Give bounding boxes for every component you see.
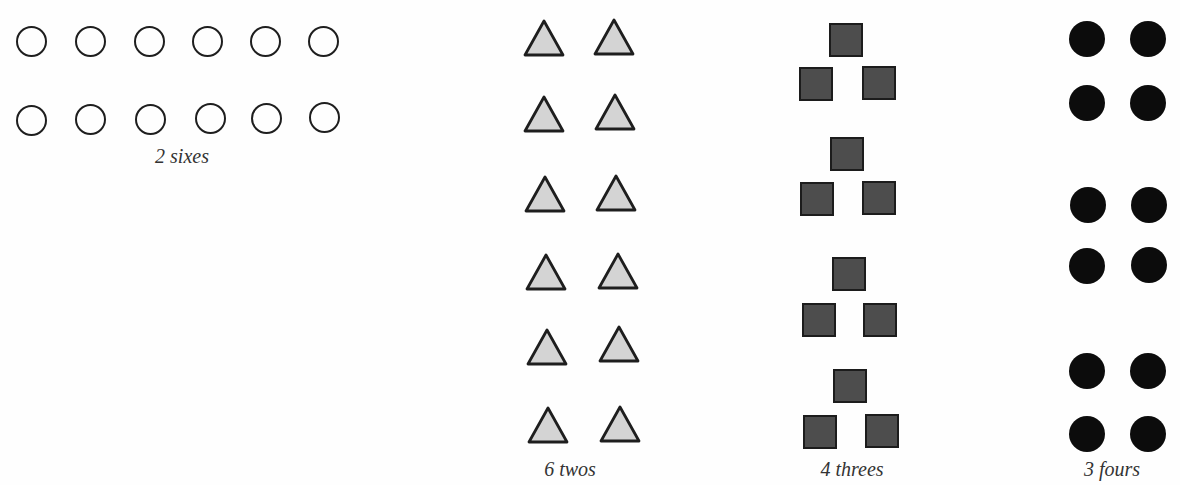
triangle-icon: [596, 251, 640, 291]
open-circle-icon: [192, 26, 223, 57]
filled-circle-icon: [1069, 416, 1105, 452]
triangle-icon: [594, 173, 638, 213]
open-circle-icon: [250, 26, 281, 57]
open-circle-icon: [16, 26, 47, 57]
square-icon: [829, 23, 863, 57]
triangle-icon: [598, 404, 642, 444]
square-icon: [862, 66, 896, 100]
group-label-sixes: 2 sixes: [155, 145, 209, 168]
group-label-fours: 3 fours: [1084, 458, 1140, 481]
filled-circle-icon: [1130, 85, 1166, 121]
square-icon: [803, 415, 837, 449]
square-icon: [863, 303, 897, 337]
open-circle-icon: [195, 103, 226, 134]
triangle-icon: [525, 327, 569, 367]
open-circle-icon: [75, 104, 106, 135]
filled-circle-icon: [1130, 353, 1166, 389]
triangle-icon: [522, 94, 566, 134]
filled-circle-icon: [1069, 353, 1105, 389]
square-icon: [830, 137, 864, 171]
open-circle-icon: [16, 105, 47, 136]
filled-circle-icon: [1131, 247, 1167, 283]
triangle-icon: [523, 174, 567, 214]
square-icon: [800, 182, 834, 216]
triangle-icon: [593, 92, 637, 132]
open-circle-icon: [135, 104, 166, 135]
group-label-twos: 6 twos: [544, 458, 596, 481]
filled-circle-icon: [1069, 248, 1105, 284]
open-circle-icon: [308, 26, 339, 57]
filled-circle-icon: [1069, 21, 1105, 57]
open-circle-icon: [309, 102, 340, 133]
square-icon: [832, 257, 866, 291]
square-icon: [802, 303, 836, 337]
filled-circle-icon: [1130, 416, 1166, 452]
filled-circle-icon: [1130, 21, 1166, 57]
grouping-diagram: 2 sixes 6 twos 4 threes: [0, 0, 1180, 485]
filled-circle-icon: [1069, 85, 1105, 121]
square-icon: [833, 369, 867, 403]
open-circle-icon: [75, 26, 106, 57]
filled-circle-icon: [1131, 187, 1167, 223]
triangle-icon: [597, 324, 641, 364]
square-icon: [862, 181, 896, 215]
square-icon: [799, 67, 833, 101]
square-icon: [865, 414, 899, 448]
filled-circle-icon: [1070, 187, 1106, 223]
triangle-icon: [526, 405, 570, 445]
group-label-threes: 4 threes: [820, 458, 883, 481]
open-circle-icon: [134, 26, 165, 57]
triangle-icon: [522, 18, 566, 58]
triangle-icon: [592, 17, 636, 57]
triangle-icon: [524, 252, 568, 292]
open-circle-icon: [251, 103, 282, 134]
